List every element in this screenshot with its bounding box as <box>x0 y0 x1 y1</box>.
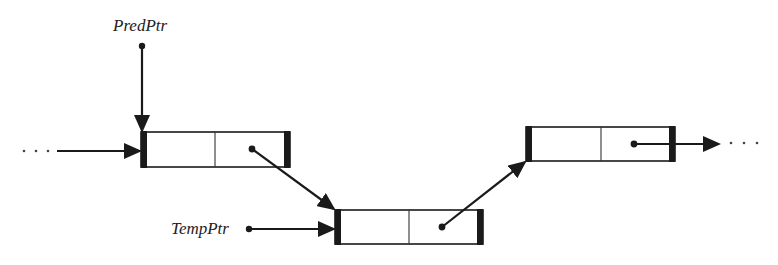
node-1 <box>141 131 290 168</box>
node-1-left-cap <box>141 131 147 168</box>
node-2-right-cap <box>477 209 483 245</box>
node-3-left-cap <box>526 126 532 162</box>
linked-list-diagram: PredPtr TempPtr <box>0 0 778 265</box>
node-2 <box>335 209 483 245</box>
temp-ptr-label: TempPtr <box>171 219 229 238</box>
left-ellipsis <box>23 150 50 153</box>
right-ellipsis <box>730 142 759 145</box>
node-1-to-node-2-arrow <box>252 149 334 209</box>
pred-ptr-label: PredPtr <box>112 16 168 35</box>
node-1-right-cap <box>284 131 290 168</box>
node-2-left-cap <box>335 209 341 245</box>
